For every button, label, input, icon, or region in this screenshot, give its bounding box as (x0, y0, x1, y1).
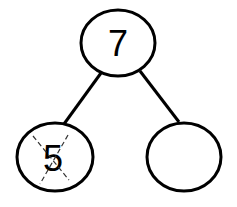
connector-left (64, 73, 101, 124)
connector-right (140, 71, 179, 122)
part-node-left: 5 (17, 123, 93, 191)
whole-value: 7 (108, 23, 128, 64)
part-node-right (147, 123, 221, 191)
number-bond-diagram: 7 5 (0, 0, 237, 207)
whole-node: 7 (81, 10, 155, 76)
